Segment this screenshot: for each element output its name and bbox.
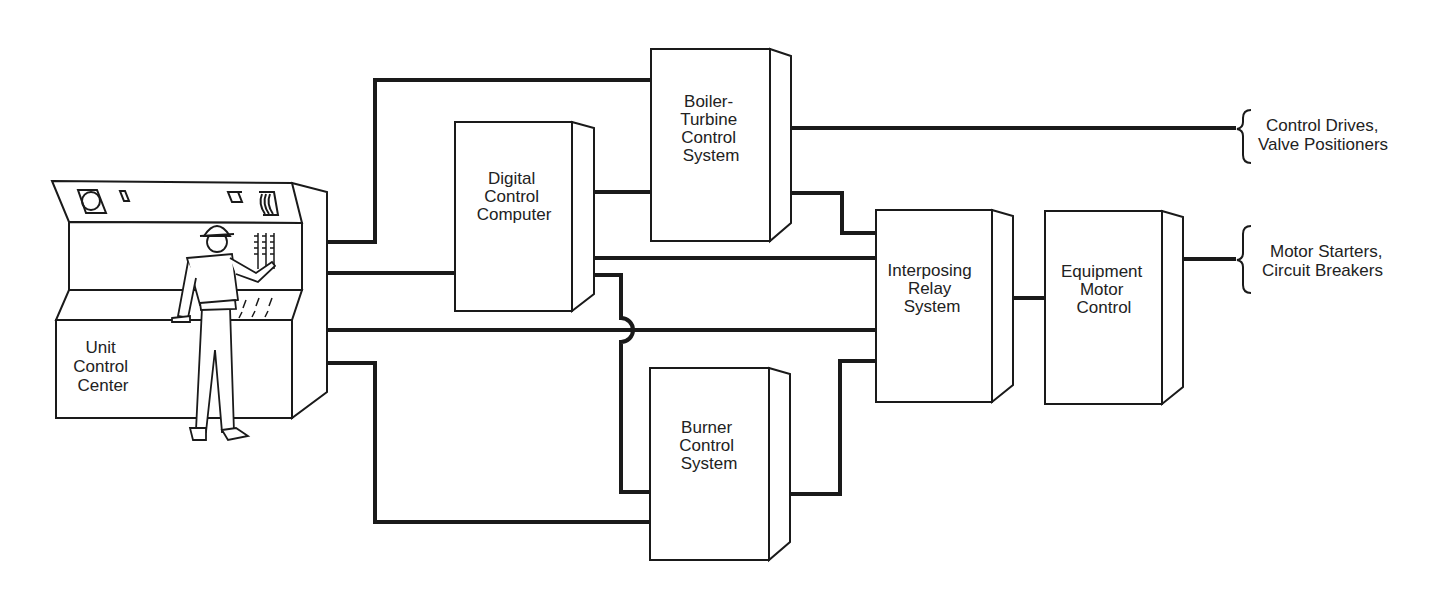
motor-starters-output: Motor Starters, Circuit Breakers: [1237, 226, 1387, 293]
unit-control-center[interactable]: Unit Control Center: [52, 181, 327, 440]
digital-control-computer-block[interactable]: Digital Control Computer: [455, 122, 594, 311]
equipment-motor-control-block[interactable]: Equipment Motor Control: [1045, 211, 1183, 404]
wire-ucc-to-burner: [327, 363, 650, 522]
brace-icon: [1237, 110, 1251, 163]
motor-control-block-side: [1162, 211, 1183, 404]
wire-burner-to-relay: [777, 361, 876, 494]
burner-block-side: [769, 368, 790, 560]
control-drives-label: Control Drives, Valve Positioners: [1258, 116, 1388, 154]
wire-computer-to-burner: [585, 275, 650, 492]
wire-boiler-turbine-to-relay: [783, 193, 876, 233]
boiler-turbine-block-side: [770, 49, 791, 241]
boiler-turbine-label: Boiler- Turbine Control System: [680, 92, 742, 165]
interposing-relay-block[interactable]: Interposing Relay System: [876, 210, 1013, 402]
brace-icon: [1237, 226, 1251, 293]
control-drives-output: Control Drives, Valve Positioners: [1237, 110, 1388, 163]
motor-starters-label: Motor Starters, Circuit Breakers: [1262, 242, 1387, 280]
boiler-turbine-control-block[interactable]: Boiler- Turbine Control System: [651, 49, 791, 241]
computer-block-side: [572, 122, 594, 311]
burner-control-label: Burner Control System: [679, 418, 739, 473]
control-system-diagram: Unit Control Center Digital Control Comp…: [0, 0, 1442, 590]
relay-block-side: [992, 210, 1013, 402]
burner-control-block[interactable]: Burner Control System: [650, 368, 790, 560]
